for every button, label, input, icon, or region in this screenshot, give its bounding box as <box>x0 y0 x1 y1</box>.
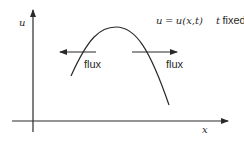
condition-variable: t <box>216 15 220 26</box>
flux-label-left: flux <box>84 59 101 70</box>
equation: u = u(x,t) t fixed <box>156 15 244 26</box>
equation-rhs: u(x,t) <box>176 15 203 26</box>
x-axis-label: x <box>202 125 208 135</box>
equation-equals: = <box>165 15 173 26</box>
flux-label-right: flux <box>166 59 183 70</box>
equation-lhs: u <box>156 15 162 26</box>
y-axis-label: u <box>19 18 25 28</box>
condition-text: fixed <box>222 14 244 26</box>
